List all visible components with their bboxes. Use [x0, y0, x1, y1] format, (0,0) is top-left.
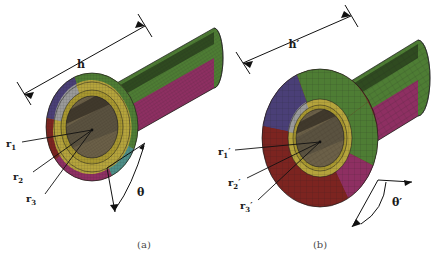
label-r1: r1 [6, 138, 16, 152]
label-h: h [77, 58, 85, 71]
figure-container: h r1 r2 r3 θ (a) [0, 0, 448, 260]
panel-b: h′ r1′ r2′ r3′ θ′ (b) [218, 5, 438, 250]
label-theta: θ [137, 186, 144, 199]
label-r3-prime: r3′ [240, 200, 253, 214]
label-r3: r3 [26, 193, 36, 207]
label-h-prime: h′ [289, 38, 300, 51]
label-theta-prime: θ′ [392, 196, 402, 209]
panel-a: h r1 r2 r3 θ (a) [6, 14, 230, 250]
label-r2: r2 [13, 171, 23, 185]
figure-svg: h r1 r2 r3 θ (a) [0, 0, 448, 260]
label-r1-prime: r1′ [218, 146, 231, 160]
label-r2-prime: r2′ [228, 177, 241, 191]
caption-a: (a) [137, 239, 151, 250]
caption-b: (b) [313, 239, 327, 250]
